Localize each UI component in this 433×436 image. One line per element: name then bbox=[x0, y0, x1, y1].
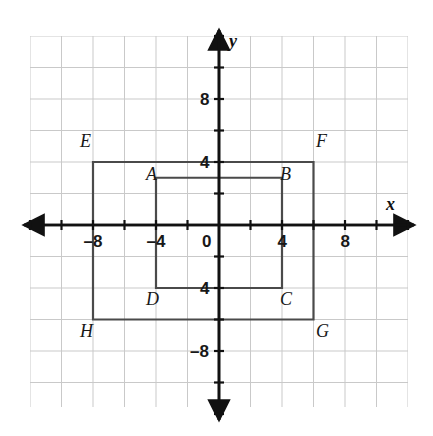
vertex-label-G: G bbox=[316, 322, 329, 340]
plot-canvas bbox=[0, 0, 433, 436]
tick-label-y-4: 4 bbox=[200, 154, 209, 171]
coordinate-plane-figure: 0–8–448844–8 EFABDCHG x y bbox=[0, 0, 433, 436]
vertex-label-D: D bbox=[146, 290, 159, 308]
axes-layer bbox=[24, 30, 414, 420]
tick-label-x--4: –4 bbox=[147, 233, 166, 250]
tick-label-y-8: 8 bbox=[200, 91, 209, 108]
tick-label-x-8: 8 bbox=[341, 233, 350, 250]
vertex-label-H: H bbox=[80, 322, 93, 340]
vertex-label-E: E bbox=[80, 132, 91, 150]
y-axis-label: y bbox=[229, 32, 237, 50]
tick-label-y--8: –8 bbox=[190, 343, 209, 360]
vertex-label-B: B bbox=[280, 165, 291, 183]
tick-label-x-4: 4 bbox=[278, 233, 287, 250]
vertex-label-F: F bbox=[316, 132, 327, 150]
tick-label-x--8: –8 bbox=[84, 233, 103, 250]
x-axis-label: x bbox=[386, 195, 395, 213]
vertex-label-C: C bbox=[280, 290, 292, 308]
tick-label-y--4: 4 bbox=[200, 280, 209, 297]
tick-label-origin: 0 bbox=[202, 233, 211, 250]
vertex-label-A: A bbox=[146, 165, 157, 183]
